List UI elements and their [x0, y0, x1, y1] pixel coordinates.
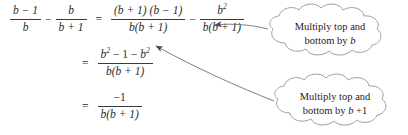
denominator: b(b + 1) — [200, 21, 244, 35]
callout-top-variable: b — [350, 35, 355, 46]
callout-bottom-text: Multiply top and bottom by b +1 — [290, 90, 380, 118]
fraction-bar — [111, 19, 185, 20]
denominator: b — [10, 21, 41, 35]
equation-line-1: b − 1 b − b b + 1 = (b + 1) (b − 1) b(b … — [10, 4, 244, 34]
fraction-bar — [56, 19, 87, 20]
callout-bottom-line-2: bottom by b +1 — [290, 104, 380, 118]
callout-bottom-line-2-prefix: bottom by — [303, 105, 349, 116]
numerator-term-2-exponent: 2 — [146, 46, 150, 55]
callout-top-text: Multiply top and bottom by b — [285, 20, 375, 48]
fraction-bar — [98, 63, 153, 64]
numerator-middle-ops: − 1 − — [110, 48, 140, 60]
fraction-final-result: −1 b(b + 1) — [98, 91, 142, 121]
callout-top-line-2-prefix: bottom by — [305, 35, 351, 46]
fraction-b-over-b-plus-1: b b + 1 — [56, 4, 87, 34]
fraction-combined-numerator: b2 − 1 − b2 b(b + 1) — [98, 48, 153, 78]
minus-operator-lhs: − — [41, 13, 56, 25]
fraction-expanded-first-term: (b + 1) (b − 1) b(b + 1) — [111, 4, 185, 34]
equals-sign-1: = — [87, 13, 112, 25]
denominator: b + 1 — [56, 21, 87, 35]
equation-line-2: = b2 − 1 − b2 b(b + 1) — [78, 48, 153, 78]
minus-operator-rhs: − — [185, 13, 200, 25]
numerator: b — [56, 4, 87, 18]
fraction-bar — [200, 19, 244, 20]
numerator: b − 1 — [10, 4, 41, 18]
callout-top-line-2: bottom by b — [285, 34, 375, 48]
denominator: b(b + 1) — [111, 21, 185, 35]
numerator-exponent: 2 — [223, 2, 227, 11]
fraction-b-squared-over-b-b-plus-1: b2 b(b + 1) — [200, 4, 244, 34]
callout-top-line-1: Multiply top and — [285, 20, 375, 34]
equals-sign-2: = — [78, 57, 98, 69]
arrow-bottom-to-first-term — [156, 46, 274, 101]
fraction-bar — [98, 106, 142, 107]
numerator: b2 — [200, 4, 244, 18]
fraction-bar — [10, 19, 41, 20]
callout-bottom-line-2-suffix: +1 — [353, 105, 367, 116]
equation-line-3: = −1 b(b + 1) — [78, 91, 142, 121]
numerator: b2 − 1 − b2 — [98, 48, 153, 62]
denominator: b(b + 1) — [98, 65, 153, 79]
callout-bottom-line-1: Multiply top and — [290, 90, 380, 104]
numerator: −1 — [98, 91, 142, 105]
fraction-b-minus-1-over-b: b − 1 b — [10, 4, 41, 34]
equals-sign-3: = — [78, 100, 98, 112]
numerator: (b + 1) (b − 1) — [111, 4, 185, 18]
math-figure: b − 1 b − b b + 1 = (b + 1) (b − 1) b(b … — [0, 0, 408, 135]
denominator: b(b + 1) — [98, 108, 142, 122]
